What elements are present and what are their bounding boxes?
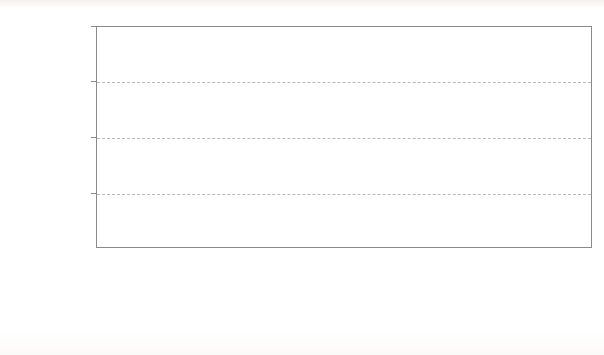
chart-figure xyxy=(0,0,604,355)
plot-area xyxy=(96,26,592,248)
y-axis xyxy=(0,0,96,222)
x-axis-labels xyxy=(96,250,592,355)
gridline-sometimes xyxy=(97,138,591,139)
gridline-almost-never xyxy=(97,194,591,195)
gridline-often xyxy=(97,82,591,83)
